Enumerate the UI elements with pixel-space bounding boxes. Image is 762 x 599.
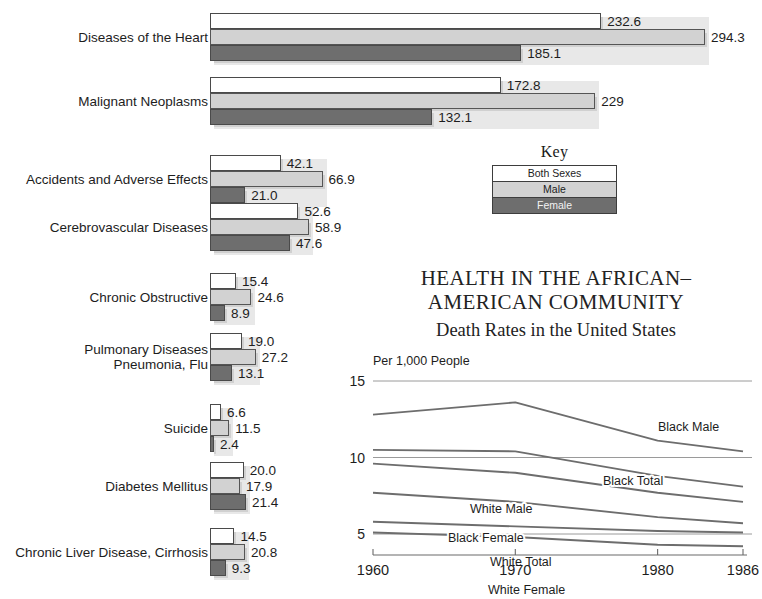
bar-group-bars: 14.520.89.3 <box>210 528 245 576</box>
bar-group-label: Suicide <box>164 421 208 436</box>
bar-female: 8.9 <box>210 305 225 321</box>
line-chart-svg: 15105Black MaleBlack MaleBlack TotalBlac… <box>340 352 762 599</box>
bar-value-label: 8.9 <box>231 306 250 321</box>
series-label-black-male: Black Male <box>658 420 719 434</box>
bar-shadow <box>214 564 228 578</box>
bar-group-bars: 172.8229132.1 <box>210 77 595 125</box>
series-label-white-female: White Female <box>488 583 565 597</box>
legend-item-female: Female <box>493 198 616 213</box>
bar-value-label: 21.0 <box>251 188 277 203</box>
bar-male: 294.3 <box>210 29 705 45</box>
bar-shadow <box>214 498 248 512</box>
bar-value-label: 294.3 <box>711 30 745 45</box>
bar-value-label: 9.3 <box>232 561 251 576</box>
y-axis-tick-label: 5 <box>357 526 365 542</box>
series-line-white-total <box>373 522 743 533</box>
series-line-white-female <box>373 532 743 546</box>
bar-group-bars: 6.611.52.4 <box>210 404 229 452</box>
bar-group-bars: 232.6294.3185.1 <box>210 13 705 61</box>
bar-value-label: 6.6 <box>227 405 246 420</box>
bar-value-label: 172.8 <box>507 78 541 93</box>
bar-female: 47.6 <box>210 235 290 251</box>
series-line-black-total <box>373 450 743 487</box>
bar-value-label: 11.5 <box>235 421 260 436</box>
bar-value-label: 20.8 <box>251 545 277 560</box>
x-axis-tick-label: 1986 <box>727 562 759 578</box>
bar-value-label: 2.4 <box>220 437 239 452</box>
bar-shadow <box>214 440 216 454</box>
series-line-black-female <box>373 493 743 524</box>
bar-both: 172.8 <box>210 77 501 93</box>
x-axis-tick-label: 1980 <box>641 562 673 578</box>
bar-value-label: 27.2 <box>262 350 288 365</box>
x-axis-tick-label: 1970 <box>499 562 531 578</box>
bar-both: 19.0 <box>210 333 242 349</box>
infographic-canvas: Diseases of the Heart232.6294.3185.1Mali… <box>0 0 762 599</box>
bar-group-label: Chronic Obstructive <box>89 290 208 305</box>
bar-female: 2.4 <box>210 436 214 452</box>
bar-shadow <box>214 369 234 383</box>
bar-both: 6.6 <box>210 404 221 420</box>
bar-value-label: 24.6 <box>257 290 283 305</box>
bar-male: 17.9 <box>210 478 240 494</box>
title-line-2: AMERICAN COMMUNITY <box>356 290 756 314</box>
bar-male: 229 <box>210 93 595 109</box>
bar-both: 42.1 <box>210 155 281 171</box>
x-axis-tick-label: 1960 <box>357 562 389 578</box>
legend-key: Key Both Sexes Male Female <box>492 143 617 214</box>
bar-value-label: 19.0 <box>248 334 274 349</box>
bar-value-label: 13.1 <box>238 366 264 381</box>
bar-shadow <box>214 113 434 127</box>
bar-female: 185.1 <box>210 45 521 61</box>
title-subtitle: Death Rates in the United States <box>356 317 756 343</box>
bar-value-label: 21.4 <box>252 495 278 510</box>
bar-group-label: Diseases of the Heart <box>78 30 208 45</box>
bar-value-label: 20.0 <box>250 463 276 478</box>
title-line-1: HEALTH IN THE AFRICAN– <box>356 266 756 290</box>
bar-value-label: 52.6 <box>304 204 330 219</box>
page-title: HEALTH IN THE AFRICAN– AMERICAN COMMUNIT… <box>356 266 756 343</box>
bar-female: 9.3 <box>210 560 226 576</box>
bar-value-label: 58.9 <box>315 220 341 235</box>
series-label-white-male: White Male <box>470 502 533 516</box>
legend-item-both-sexes: Both Sexes <box>493 166 616 182</box>
line-chart: Per 1,000 People 15105Black MaleBlack Ma… <box>340 352 762 599</box>
y-axis-tick-label: 10 <box>349 450 365 466</box>
legend-heading: Key <box>492 143 617 161</box>
series-label-black-total: Black Total <box>603 474 663 488</box>
series-label-black-female: Black Female <box>448 531 524 545</box>
bar-value-label: 132.1 <box>438 110 472 125</box>
bar-value-label: 15.4 <box>242 274 268 289</box>
bar-value-label: 66.9 <box>329 172 355 187</box>
bar-value-label: 14.5 <box>240 529 266 544</box>
bar-value-label: 229 <box>601 94 624 109</box>
bar-group-bars: 52.658.947.6 <box>210 203 309 251</box>
bar-male: 24.6 <box>210 289 251 305</box>
bar-value-label: 17.9 <box>246 479 272 494</box>
bar-group-bars: 20.017.921.4 <box>210 462 246 510</box>
bar-value-label: 42.1 <box>287 156 313 171</box>
bar-group-label: Diabetes Mellitus <box>105 479 208 494</box>
bar-group-label: Pulmonary Diseases Pneumonia, Flu <box>84 342 208 372</box>
bar-value-label: 185.1 <box>527 46 561 61</box>
bar-value-label: 47.6 <box>296 236 322 251</box>
bar-both: 15.4 <box>210 273 236 289</box>
bar-both: 20.0 <box>210 462 244 478</box>
bar-group-label: Accidents and Adverse Effects <box>26 172 208 187</box>
bar-group-label: Malignant Neoplasms <box>78 94 208 109</box>
y-axis-tick-label: 15 <box>349 373 365 389</box>
bar-shadow <box>214 239 292 253</box>
bar-group-bars: 15.424.68.9 <box>210 273 251 321</box>
bar-shadow <box>214 49 523 63</box>
legend-item-male: Male <box>493 182 616 198</box>
bar-value-label: 232.6 <box>607 14 641 29</box>
bar-male: 20.8 <box>210 544 245 560</box>
bar-shadow <box>214 309 227 323</box>
bar-female: 132.1 <box>210 109 432 125</box>
bar-group-label: Chronic Liver Disease, Cirrhosis <box>15 545 208 560</box>
bar-female: 21.4 <box>210 494 246 510</box>
bar-both: 52.6 <box>210 203 298 219</box>
bar-group-label: Cerebrovascular Diseases <box>50 220 208 235</box>
bar-both: 232.6 <box>210 13 601 29</box>
bar-male: 11.5 <box>210 420 229 436</box>
